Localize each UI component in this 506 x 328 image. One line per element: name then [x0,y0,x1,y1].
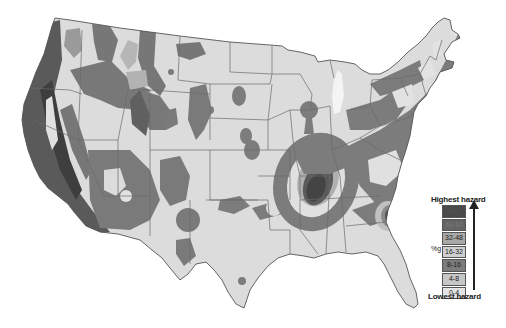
legend-swatch-16-32: 16-32 [442,246,466,259]
legend-scale: 64+ 48-64 32-48 16-32 8-16 4-8 0-4 [442,205,466,300]
legend-swatch-8-16: 8-16 [442,259,466,272]
legend-swatch-64-plus: 64+ [442,205,466,218]
legend-swatch-48-64: 48-64 [442,219,466,232]
legend-swatch-32-48: 32-48 [442,232,466,245]
legend-lowest-label: Lowest hazard [428,292,481,301]
arrow-up-icon [473,206,475,290]
legend: Highest hazard 64+ 48-64 32-48 16-32 8-1… [424,192,506,304]
legend-swatch-4-8: 4-8 [442,273,466,286]
legend-unit-label: %g [431,245,441,252]
